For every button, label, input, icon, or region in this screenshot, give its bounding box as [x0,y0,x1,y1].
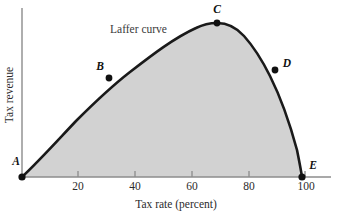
x-tick-label-80: 80 [243,180,255,192]
x-tick-label-40: 40 [129,180,141,192]
point-label-a: A [11,155,20,167]
point-marker-d [272,67,279,74]
laffer-curve-chart: 20 40 60 80 100 Tax rate (percent) Tax r… [0,0,341,218]
point-label-e: E [308,159,317,171]
point-label-c: C [213,3,221,15]
point-marker-c [214,20,221,27]
x-tick-label-100: 100 [297,180,315,192]
point-label-d: D [282,57,292,69]
point-marker-e [298,173,305,180]
laffer-curve-annotation: Laffer curve [110,23,167,35]
point-marker-a [18,173,25,180]
point-label-b: B [95,60,104,72]
x-axis-title: Tax rate (percent) [135,198,217,211]
curve-shaded-area [22,23,302,177]
point-marker-b [106,75,113,82]
y-axis-title: Tax revenue [3,67,15,123]
x-tick-label-60: 60 [186,180,198,192]
x-tick-label-20: 20 [72,180,84,192]
laffer-curve-figure: 20 40 60 80 100 Tax rate (percent) Tax r… [0,0,341,218]
